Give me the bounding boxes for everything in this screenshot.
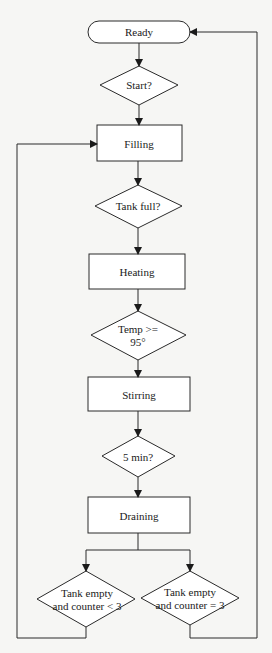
- five-min-label: 5 min?: [123, 451, 153, 463]
- stirring-label: Stirring: [122, 389, 156, 401]
- filling-label: Filling: [124, 138, 153, 150]
- loop-left-to-filling: [17, 144, 97, 638]
- edge-branch-left: [86, 550, 138, 571]
- start-label: Start?: [126, 79, 152, 91]
- temp-label-line1: Temp >=: [118, 323, 158, 335]
- empty-lt3-line1: Tank empty: [61, 587, 113, 599]
- empty-eq3-line2: and counter = 3: [156, 599, 225, 611]
- empty-lt3-decision: [37, 571, 135, 627]
- temp-label-line2: 95°: [130, 336, 145, 348]
- empty-eq3-line1: Tank empty: [164, 586, 216, 598]
- loop-right-to-ready: [190, 32, 257, 638]
- ready-label: Ready: [125, 26, 153, 38]
- heating-label: Heating: [120, 266, 155, 278]
- draining-label: Draining: [119, 510, 158, 522]
- edge-branch-right: [138, 550, 190, 571]
- empty-lt3-line2: and counter < 3: [53, 600, 122, 612]
- empty-eq3-decision: [141, 571, 239, 625]
- tank-full-label: Tank full?: [116, 200, 161, 212]
